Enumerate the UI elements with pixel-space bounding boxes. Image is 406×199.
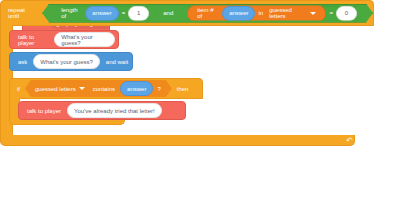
equals-operator-block-right[interactable]: item # of answer in guessed letters = 0 bbox=[180, 6, 364, 21]
variable-answer-oval-2[interactable]: answer bbox=[222, 6, 255, 21]
then-label: then bbox=[172, 86, 192, 92]
repeat-until-footer bbox=[0, 135, 355, 146]
and-wait-label: and wait bbox=[103, 59, 131, 65]
chevron-down-icon-1 bbox=[310, 12, 316, 15]
length-of-label: length of bbox=[58, 7, 85, 19]
equals-operator-block-left[interactable]: length of answer = 1 bbox=[51, 6, 156, 21]
if-keyword-label: if bbox=[14, 86, 23, 92]
ask-label: ask bbox=[15, 59, 30, 65]
if-then-block[interactable]: if guessed letters contains answer ? the… bbox=[9, 78, 203, 125]
repeat-until-block[interactable]: repeat until length of answer = 1 and bbox=[0, 0, 374, 146]
talk-text-input-2[interactable]: You've already tried that letter! bbox=[67, 103, 162, 118]
and-operator-block[interactable]: length of answer = 1 and item # of answe… bbox=[42, 4, 373, 23]
block-editor-canvas[interactable]: define get player's guess repeat until l… bbox=[0, 0, 406, 199]
talk-text-input-1[interactable]: What's your guess? bbox=[54, 32, 115, 47]
in-label: in bbox=[255, 10, 266, 16]
talk-to-player-label-2: talk to player bbox=[24, 108, 64, 114]
number-input-1[interactable]: 1 bbox=[128, 6, 149, 21]
item-number-of-list-block[interactable]: item # of answer in guessed letters bbox=[187, 5, 326, 22]
talk-to-player-block-1[interactable]: talk to player What's your guess? bbox=[9, 30, 119, 49]
variable-answer-oval-1[interactable]: answer bbox=[85, 6, 118, 21]
list-name-label-2: guessed letters bbox=[35, 86, 76, 92]
number-input-2[interactable]: 0 bbox=[336, 6, 357, 21]
repeat-until-keyword-label: repeat until bbox=[5, 7, 40, 19]
list-dropdown-guessed-letters-2[interactable]: guessed letters bbox=[32, 86, 88, 92]
equals-sign-label-left: = bbox=[119, 10, 129, 16]
ask-text-input[interactable]: What's your guess? bbox=[33, 54, 100, 69]
chevron-down-icon-2 bbox=[79, 87, 85, 90]
repeat-until-header[interactable]: repeat until length of answer = 1 and bbox=[0, 0, 374, 26]
talk-to-player-label-1: talk to player bbox=[15, 34, 51, 46]
list-name-label-1: guessed letters bbox=[269, 7, 307, 19]
list-contains-block[interactable]: guessed letters contains answer ? bbox=[25, 80, 172, 97]
and-keyword-label: and bbox=[156, 10, 180, 16]
talk-to-player-block-2[interactable]: talk to player You've already tried that… bbox=[18, 101, 186, 120]
equals-sign-label-right: = bbox=[326, 10, 336, 16]
question-mark-label: ? bbox=[153, 86, 164, 92]
variable-answer-oval-3[interactable]: answer bbox=[120, 81, 153, 96]
list-dropdown-guessed-letters-1[interactable]: guessed letters bbox=[266, 7, 319, 19]
contains-label: contains bbox=[88, 86, 120, 92]
if-then-header[interactable]: if guessed letters contains answer ? the… bbox=[9, 78, 203, 99]
loop-arrow-icon: ↶ bbox=[345, 137, 354, 145]
ask-and-wait-block[interactable]: ask What's your guess? and wait bbox=[9, 52, 133, 71]
item-number-of-label: item # of bbox=[194, 7, 222, 19]
